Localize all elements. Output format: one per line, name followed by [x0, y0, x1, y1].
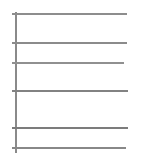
gridline-3	[15, 90, 128, 92]
gridline-2	[15, 62, 124, 64]
y-tick-5	[12, 147, 18, 149]
y-axis-line	[15, 12, 17, 153]
y-tick-0	[12, 13, 18, 15]
y-tick-1	[12, 42, 18, 44]
y-tick-4	[12, 127, 18, 129]
plot-area	[0, 0, 141, 159]
gridline-0	[15, 13, 127, 15]
gridline-4	[15, 127, 128, 129]
gridline-1	[15, 42, 127, 44]
chart-container	[0, 0, 141, 159]
gridline-5	[15, 147, 126, 149]
y-tick-3	[12, 90, 18, 92]
y-tick-2	[12, 62, 18, 64]
